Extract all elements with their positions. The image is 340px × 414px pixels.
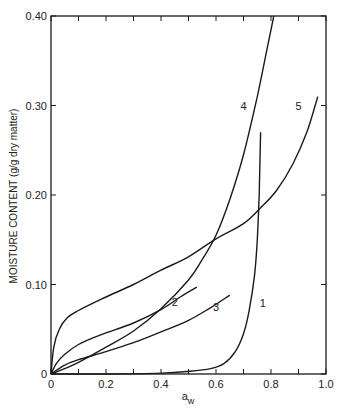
x-axis-title: aw <box>182 390 195 406</box>
curve-label-4: 4 <box>240 100 246 112</box>
curve-5 <box>51 97 318 374</box>
x-tick-label: 0.8 <box>263 378 278 390</box>
x-tick-label: 0.2 <box>98 378 113 390</box>
curve-4 <box>51 16 274 374</box>
curve-label-2: 2 <box>172 296 178 308</box>
y-tick-label: 0.40 <box>26 10 47 22</box>
y-tick-label: 0.20 <box>26 189 47 201</box>
y-tick-label: 0.10 <box>26 279 47 291</box>
y-axis-title: MOISTURE CONTENT (g/g dry matter) <box>8 109 19 284</box>
curve-1 <box>51 132 261 374</box>
y-tick-label: 0 <box>41 368 47 380</box>
moisture-sorption-chart: 00.20.40.60.81.0 00.100.200.300.40 12345… <box>0 0 340 414</box>
curve-label-5: 5 <box>295 100 301 112</box>
curve-label-1: 1 <box>260 297 266 309</box>
curve-labels: 12345 <box>172 100 302 313</box>
x-tick-label: 1.0 <box>318 378 333 390</box>
y-tick-label: 0.30 <box>26 100 47 112</box>
x-tick-label: 0.4 <box>153 378 168 390</box>
curve-label-3: 3 <box>213 301 219 313</box>
x-tick-label: 0 <box>48 378 54 390</box>
x-axis-ticks: 00.20.40.60.81.0 <box>48 16 334 390</box>
x-axis-title-sub: w <box>187 396 195 406</box>
sorption-curves <box>51 16 318 374</box>
x-tick-label: 0.6 <box>208 378 223 390</box>
y-axis-ticks: 00.100.200.300.40 <box>26 10 326 380</box>
